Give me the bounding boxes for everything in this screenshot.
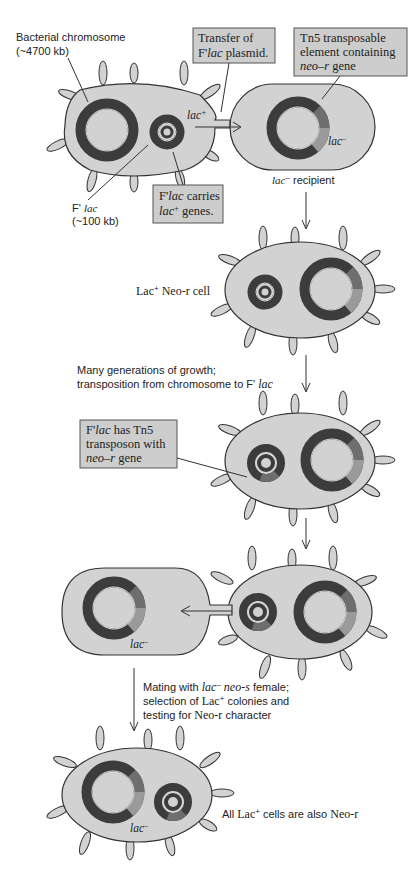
flac-label: F' lac: [72, 202, 97, 214]
bacterial-chromosome-size: (~4700 kb): [16, 45, 69, 57]
mating-donor-cell: [209, 546, 388, 680]
flac-size: (~100 kb): [72, 215, 119, 227]
lac-neo-cell-label: Lac+ Neo-r cell: [136, 284, 211, 299]
has-tn5-text-1: F'lac has Tn5: [86, 423, 153, 437]
mating-text-2: selection of Lac+ colonies and: [143, 694, 289, 709]
tn5-text-2: element containing: [300, 45, 396, 59]
transfer-text-2: F'lac plasmid.: [198, 46, 268, 60]
final-text: All Lac+ cells are also Neo-r: [222, 807, 358, 822]
flac-carries-text-2: lac+ genes.: [159, 204, 214, 219]
bacterial-chromosome-label: Bacterial chromosome: [16, 31, 125, 43]
has-tn5-text-2: transposon with: [86, 437, 166, 451]
has-tn5-text-3: neo–r gene: [86, 451, 142, 465]
mating-text-1: Mating with lac– neo-s female;: [143, 680, 289, 695]
conjugation-transposition-diagram: Bacterial chromosome (~4700 kb) Transfer…: [0, 0, 414, 884]
flac-carries-text-1: F'lac carries: [159, 189, 220, 203]
flac-tn5-cell: [209, 391, 395, 526]
lac-neo-cell: [209, 226, 395, 355]
many-generations-text-1: Many generations of growth;: [77, 364, 216, 376]
mating-text-3: testing for Neo-r character: [143, 708, 272, 722]
transfer-text-1: Transfer of: [198, 31, 254, 45]
tn5-text-1: Tn5 transposable: [300, 31, 386, 45]
many-generations-text-2: transposition from chromosome to F' lac: [77, 377, 274, 391]
tn5-text-3: neo–r gene: [300, 59, 356, 73]
recipient-label: lac– recipient: [272, 173, 335, 187]
recipient-cell-top: [230, 84, 375, 170]
final-cell: [45, 726, 234, 860]
